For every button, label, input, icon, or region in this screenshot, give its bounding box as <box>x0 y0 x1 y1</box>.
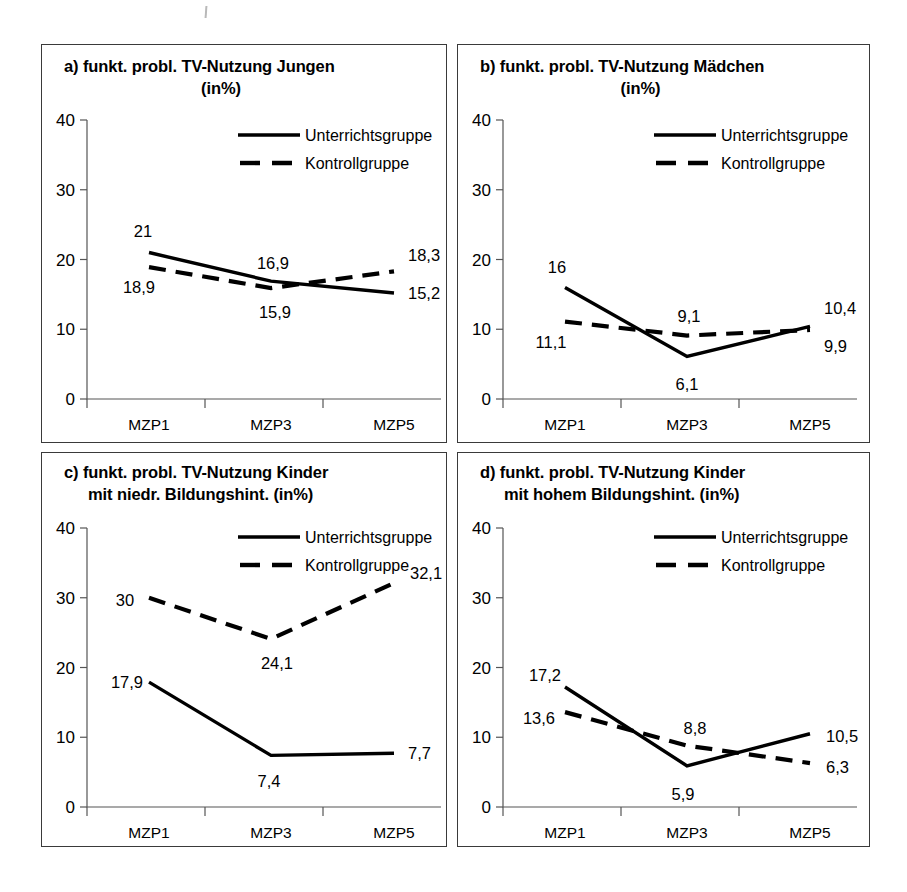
panel-a-plot: 010203040MZP1MZP3MZP52116,915,218,915,91… <box>42 45 446 442</box>
svg-text:20: 20 <box>472 251 491 270</box>
svg-text:10: 10 <box>56 728 75 747</box>
legend-label-unterrichtsgruppe: Unterrichtsgruppe <box>721 529 848 546</box>
chart-panel-b: b) funkt. probl. TV-Nutzung Mädchen (in%… <box>457 44 870 443</box>
data-label: 18,9 <box>123 278 155 296</box>
svg-text:0: 0 <box>482 390 491 409</box>
data-label: 7,7 <box>408 744 431 762</box>
data-label: 16,9 <box>257 254 289 272</box>
data-label: 5,9 <box>672 785 695 803</box>
legend-label-kontrollgruppe: Kontrollgruppe <box>721 155 825 172</box>
svg-text:20: 20 <box>472 659 491 678</box>
legend-label-unterrichtsgruppe: Unterrichtsgruppe <box>305 127 432 144</box>
chart-panel-a: a) funkt. probl. TV-Nutzung Jungen (in%)… <box>41 44 447 443</box>
legend-label-kontrollgruppe: Kontrollgruppe <box>305 557 409 574</box>
svg-text:MZP3: MZP3 <box>250 824 291 841</box>
data-label: 8,8 <box>684 719 707 737</box>
svg-text:0: 0 <box>66 798 75 817</box>
svg-text:20: 20 <box>56 251 75 270</box>
chart-panel-c: c) funkt. probl. TV-Nutzung Kinder mit n… <box>41 452 447 847</box>
data-label: 9,9 <box>824 337 847 355</box>
data-label: 24,1 <box>261 654 293 672</box>
chart-panel-d: d) funkt. probl. TV-Nutzung Kinder mit h… <box>457 452 870 847</box>
svg-text:30: 30 <box>472 589 491 608</box>
svg-text:MZP5: MZP5 <box>789 416 830 433</box>
data-label: 21 <box>134 222 152 240</box>
data-label: 6,1 <box>676 375 699 393</box>
data-label: 17,9 <box>111 673 143 691</box>
x-axis-labels: MZP1MZP3MZP5 <box>128 824 414 841</box>
panel-c-plot: 010203040MZP1MZP3MZP517,97,47,73024,132,… <box>42 453 446 846</box>
legend: UnterrichtsgruppeKontrollgruppe <box>238 529 432 574</box>
svg-text:40: 40 <box>56 111 75 130</box>
data-label: 6,3 <box>826 758 849 776</box>
svg-text:MZP3: MZP3 <box>250 416 291 433</box>
svg-text:MZP3: MZP3 <box>666 824 707 841</box>
legend: UnterrichtsgruppeKontrollgruppe <box>654 127 848 172</box>
data-label: 15,2 <box>408 284 440 302</box>
legend-label-unterrichtsgruppe: Unterrichtsgruppe <box>305 529 432 546</box>
svg-text:MZP1: MZP1 <box>128 824 169 841</box>
svg-text:30: 30 <box>56 589 75 608</box>
data-label: 13,6 <box>523 709 555 727</box>
svg-text:40: 40 <box>56 519 75 538</box>
data-label: 7,4 <box>258 772 281 790</box>
legend: UnterrichtsgruppeKontrollgruppe <box>654 529 848 574</box>
svg-text:10: 10 <box>472 728 491 747</box>
svg-text:MZP1: MZP1 <box>544 824 585 841</box>
legend-label-unterrichtsgruppe: Unterrichtsgruppe <box>721 127 848 144</box>
svg-text:20: 20 <box>56 659 75 678</box>
data-label: 30 <box>116 591 134 609</box>
svg-text:MZP1: MZP1 <box>544 416 585 433</box>
data-label: 17,2 <box>529 666 561 684</box>
svg-text:10: 10 <box>56 320 75 339</box>
panel-b-plot: 010203040MZP1MZP3MZP5166,110,411,19,19,9… <box>458 45 869 442</box>
data-label: 15,9 <box>259 303 291 321</box>
svg-text:MZP5: MZP5 <box>373 824 414 841</box>
series-dashed <box>149 583 394 639</box>
svg-text:0: 0 <box>66 390 75 409</box>
legend: UnterrichtsgruppeKontrollgruppe <box>238 127 432 172</box>
x-axis-labels: MZP1MZP3MZP5 <box>544 824 830 841</box>
svg-text:30: 30 <box>472 181 491 200</box>
svg-text:0: 0 <box>482 798 491 817</box>
legend-label-kontrollgruppe: Kontrollgruppe <box>721 557 825 574</box>
svg-text:40: 40 <box>472 519 491 538</box>
svg-text:MZP3: MZP3 <box>666 416 707 433</box>
svg-text:MZP1: MZP1 <box>128 416 169 433</box>
data-label: 10,4 <box>824 299 856 317</box>
data-label: 18,3 <box>408 246 440 264</box>
svg-text:40: 40 <box>472 111 491 130</box>
data-label: 32,1 <box>410 564 442 582</box>
panel-d-plot: 010203040MZP1MZP3MZP517,25,910,513,68,86… <box>458 453 869 846</box>
scan-artifact-speck <box>205 6 208 18</box>
svg-text:MZP5: MZP5 <box>373 416 414 433</box>
x-axis-labels: MZP1MZP3MZP5 <box>544 416 830 433</box>
data-label: 16 <box>548 258 566 276</box>
svg-text:MZP5: MZP5 <box>789 824 830 841</box>
data-label: 10,5 <box>826 727 858 745</box>
data-label: 11,1 <box>536 333 567 351</box>
svg-text:30: 30 <box>56 181 75 200</box>
series-solid <box>149 682 394 755</box>
data-label: 9,1 <box>678 307 701 325</box>
svg-text:10: 10 <box>472 320 491 339</box>
legend-label-kontrollgruppe: Kontrollgruppe <box>305 155 409 172</box>
x-axis-labels: MZP1MZP3MZP5 <box>128 416 414 433</box>
